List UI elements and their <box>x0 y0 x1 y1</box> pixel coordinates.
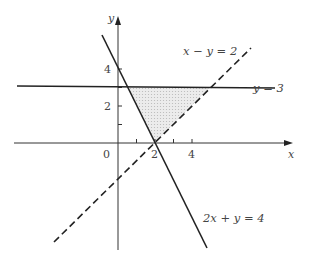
equation-label-2x-plus-y: 2x + y = 4 <box>202 211 265 225</box>
x-tick-label-4: 4 <box>188 148 195 161</box>
y-axis <box>115 16 122 250</box>
x-axis-arrow-icon <box>284 140 293 146</box>
x-axis-label: x <box>288 148 295 161</box>
y-axis-label: y <box>107 12 115 25</box>
shaded-feasible-region <box>127 87 210 143</box>
y-tick-label-2: 2 <box>104 100 111 113</box>
equation-label-y-equals-3: y = 3 <box>252 81 284 95</box>
y-tick-label-4: 4 <box>104 63 111 76</box>
origin-label: 0 <box>103 148 110 161</box>
y-axis-arrow-icon <box>115 16 121 25</box>
coordinate-plane-diagram: y x 0 2 4 2 4 x − y = 2 y = 3 2x + y = 4 <box>0 0 311 264</box>
line-y-equals-3 <box>17 86 275 88</box>
x-tick-label-2: 2 <box>151 148 158 161</box>
equation-label-x-minus-y: x − y = 2 <box>183 44 237 58</box>
